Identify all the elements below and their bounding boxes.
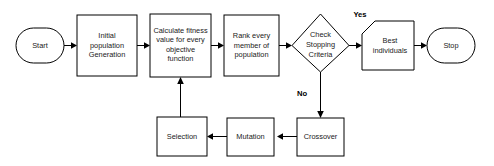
node-stop-label: Stop	[443, 41, 458, 50]
node-initial-label-line1: Initial	[98, 31, 116, 40]
node-check-label-line2: Stopping	[306, 40, 335, 49]
edge-check-to-best	[349, 42, 362, 49]
flowchart-canvas: Start Initial population Generation Calc…	[0, 0, 494, 166]
edge-start-to-init	[64, 42, 77, 49]
node-initial-population-generation[interactable]: Initial population Generation	[77, 15, 137, 76]
node-check-stopping-criteria[interactable]: Check Stopping Criteria	[292, 14, 349, 72]
edge-crossover-to-mutation	[277, 133, 297, 140]
node-rank-population[interactable]: Rank every member of population	[224, 15, 279, 76]
edge-mutation-to-selection	[207, 133, 227, 140]
node-best-individuals[interactable]: Best individuals	[362, 21, 414, 70]
node-fitness-label-line2: value for every	[156, 35, 205, 44]
node-crossover-label: Crossover	[304, 132, 338, 141]
flowchart-svg: Start Initial population Generation Calc…	[0, 0, 494, 166]
edge-rank-to-check	[279, 42, 292, 49]
node-selection[interactable]: Selection	[157, 117, 207, 156]
node-best-label-line2: individuals	[373, 46, 408, 55]
node-start-label: Start	[32, 41, 48, 50]
node-crossover[interactable]: Crossover	[297, 118, 344, 156]
node-fitness-label-line1: Calculate fitness	[153, 26, 208, 35]
node-rank-label-line1: Rank every	[233, 31, 271, 40]
node-check-label-line1: Check	[310, 30, 331, 39]
node-fitness-label-line4: function	[168, 54, 194, 63]
node-initial-label-line2: population	[90, 41, 124, 50]
branch-label-no: No	[297, 89, 307, 98]
branch-label-yes: Yes	[353, 10, 366, 19]
node-start[interactable]: Start	[16, 28, 64, 63]
edge-best-to-stop	[414, 42, 427, 49]
node-mutation-label: Mutation	[236, 132, 264, 141]
edge-fitness-to-rank	[211, 42, 224, 49]
node-initial-label-line3: Generation	[89, 50, 126, 59]
edge-selection-to-fitness	[177, 77, 184, 117]
node-rank-label-line2: member of	[234, 41, 270, 50]
node-rank-label-line3: population	[234, 50, 268, 59]
edge-init-to-fitness	[137, 42, 150, 49]
node-selection-label: Selection	[167, 132, 197, 141]
node-mutation[interactable]: Mutation	[227, 118, 274, 156]
node-fitness-label-line3: objective	[166, 45, 195, 54]
node-stop[interactable]: Stop	[427, 28, 475, 63]
node-calculate-fitness[interactable]: Calculate fitness value for every object…	[150, 14, 211, 77]
node-best-label-line1: Best	[383, 36, 398, 45]
node-check-label-line3: Criteria	[309, 50, 334, 59]
edge-check-to-crossover	[317, 72, 324, 118]
